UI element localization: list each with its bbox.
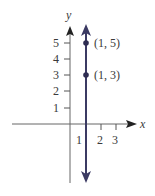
graph-canvas: x y 5 4 3 2 1 1 2 3 (1, 5) (1, 3) xyxy=(0,0,155,196)
x-tick-3: 3 xyxy=(112,133,118,147)
x-axis-label: x xyxy=(139,117,146,131)
y-tick-5: 5 xyxy=(53,36,59,50)
x-tick-1: 1 xyxy=(76,133,82,147)
y-tick-2: 2 xyxy=(53,84,59,98)
y-tick-3: 3 xyxy=(53,68,59,82)
point-1-3 xyxy=(83,72,89,78)
point-label-1-5: (1, 5) xyxy=(94,36,120,50)
y-axis-label: y xyxy=(65,8,72,22)
y-ticks xyxy=(64,43,70,108)
y-tick-1: 1 xyxy=(53,101,59,115)
point-label-1-3: (1, 3) xyxy=(94,68,120,82)
x-tick-2: 2 xyxy=(97,133,103,147)
y-tick-4: 4 xyxy=(53,52,59,66)
point-1-5 xyxy=(83,40,89,46)
x-ticks xyxy=(101,124,116,130)
